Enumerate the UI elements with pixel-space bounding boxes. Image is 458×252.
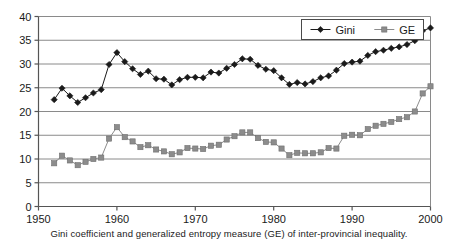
data-point-marker: [302, 151, 307, 156]
data-point-marker: [216, 142, 221, 147]
data-point-marker: [91, 156, 96, 161]
data-point-marker: [224, 137, 229, 142]
x-tick-label: 1990: [340, 213, 364, 225]
data-point-marker: [90, 90, 96, 96]
data-point-marker: [240, 130, 245, 135]
data-point-marker: [201, 146, 206, 151]
y-tick-label: 40: [19, 11, 31, 23]
x-tick-label: 1980: [261, 213, 285, 225]
data-point-marker: [357, 133, 362, 138]
series-markers-group: [51, 25, 434, 168]
data-point-marker: [216, 70, 222, 76]
data-point-marker: [75, 163, 80, 168]
data-point-marker: [177, 150, 182, 155]
data-point-marker: [193, 146, 198, 151]
data-point-marker: [106, 136, 111, 141]
data-point-marker: [326, 145, 331, 150]
data-point-marker: [373, 123, 378, 128]
data-point-marker: [192, 74, 198, 80]
data-point-marker: [263, 139, 268, 144]
legend-label-ge: GE: [399, 24, 415, 36]
data-point-marker: [389, 119, 394, 124]
data-point-marker: [130, 139, 135, 144]
data-point-marker: [114, 125, 119, 130]
legend-label-gini: Gini: [336, 24, 356, 36]
data-point-marker: [420, 91, 425, 96]
data-point-marker: [365, 126, 370, 131]
y-axis-ticks-group: 4035302520151050: [19, 11, 38, 213]
data-point-marker: [294, 79, 300, 85]
data-point-marker: [122, 135, 127, 140]
data-point-marker: [350, 132, 355, 137]
y-tick-label: 0: [25, 201, 31, 213]
figure-container: 4035302520151050 19501960197019801990200…: [0, 0, 458, 252]
series-markers-ge: [52, 84, 434, 168]
data-point-marker: [404, 41, 410, 47]
data-point-marker: [396, 44, 402, 50]
data-point-marker: [287, 153, 292, 158]
legend[interactable]: GiniGE: [302, 20, 424, 40]
data-point-marker: [169, 152, 174, 157]
data-point-marker: [59, 153, 64, 158]
data-point-marker: [154, 147, 159, 152]
data-point-marker: [427, 25, 433, 31]
data-point-marker: [177, 77, 183, 83]
data-point-marker: [185, 145, 190, 150]
data-point-marker: [388, 45, 394, 51]
data-point-marker: [373, 49, 379, 55]
data-point-marker: [263, 66, 269, 72]
x-tick-label: 1950: [26, 213, 50, 225]
data-point-marker: [310, 151, 315, 156]
y-tick-label: 30: [19, 58, 31, 70]
data-point-marker: [295, 150, 300, 155]
data-point-marker: [106, 61, 112, 67]
y-tick-label: 25: [19, 82, 31, 94]
data-point-marker: [380, 47, 386, 53]
figure-caption: Gini coefficient and generalized entropy…: [0, 228, 458, 239]
data-point-marker: [302, 81, 308, 87]
series-lines-group: [54, 28, 430, 165]
data-point-marker: [248, 130, 253, 135]
data-point-marker: [404, 115, 409, 120]
data-point-marker: [255, 136, 260, 141]
y-tick-label: 35: [19, 34, 31, 46]
data-point-marker: [208, 143, 213, 148]
data-point-marker: [310, 78, 316, 84]
data-point-marker: [83, 159, 88, 164]
data-point-marker: [99, 155, 104, 160]
y-tick-label: 5: [25, 177, 31, 189]
y-tick-label: 10: [19, 153, 31, 165]
data-point-marker: [51, 97, 57, 103]
data-point-marker: [412, 109, 417, 114]
data-point-marker: [67, 158, 72, 163]
data-point-marker: [428, 84, 433, 89]
data-point-marker: [146, 143, 151, 148]
data-point-marker: [224, 65, 230, 71]
data-point-marker: [279, 146, 284, 151]
x-tick-label: 1970: [183, 213, 207, 225]
data-point-marker: [334, 146, 339, 151]
data-point-marker: [271, 140, 276, 145]
data-point-marker: [318, 75, 324, 81]
data-point-marker: [381, 121, 386, 126]
x-tick-label: 2000: [418, 213, 442, 225]
data-point-marker: [138, 145, 143, 150]
data-point-marker: [161, 149, 166, 154]
data-point-marker: [382, 27, 387, 32]
data-point-marker: [397, 117, 402, 122]
y-tick-label: 20: [19, 106, 31, 118]
data-point-marker: [318, 150, 323, 155]
data-point-marker: [184, 74, 190, 80]
data-point-marker: [342, 133, 347, 138]
x-axis-ticks-group: 195019601970198019902000: [26, 207, 442, 225]
data-point-marker: [52, 161, 57, 166]
data-point-marker: [82, 95, 88, 101]
data-point-marker: [232, 134, 237, 139]
x-tick-label: 1960: [105, 213, 129, 225]
y-tick-label: 15: [19, 129, 31, 141]
chart-plot-area: 4035302520151050 19501960197019801990200…: [0, 0, 458, 225]
line-chart-svg: 4035302520151050 19501960197019801990200…: [0, 0, 458, 225]
